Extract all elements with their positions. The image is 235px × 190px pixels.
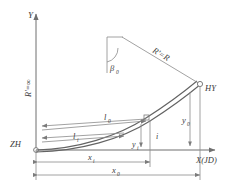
- radius-line: [122, 37, 200, 84]
- beta-angle-arc: [107, 48, 118, 62]
- arc-length-dimensions: [42, 119, 146, 142]
- spiral-curve-inner: [36, 84, 201, 152]
- xi-label: x: [87, 152, 92, 162]
- y0-label: y: [181, 115, 186, 125]
- zh-point-label: ZH: [10, 139, 22, 149]
- x0-label-group: x 0: [111, 165, 120, 177]
- hy-point-label: HY: [204, 83, 217, 93]
- spiral-curve-outer: [36, 81, 197, 150]
- curve-group: [36, 81, 201, 152]
- y0-subscript: 0: [187, 121, 190, 127]
- radius-infinite-label: R'=∞: [24, 79, 33, 98]
- beta0-label: β: [109, 63, 115, 73]
- x-axis-label: X(JD): [195, 155, 217, 165]
- xi-label-group: x i: [87, 152, 95, 164]
- l0-label-group: l 0: [104, 112, 111, 124]
- radius-line-group: [107, 37, 200, 84]
- l0-subscript: 0: [108, 118, 111, 124]
- xi-subscript: i: [93, 158, 95, 164]
- beta0-label-group: β 0: [109, 63, 119, 75]
- hy-point-marker: [197, 81, 202, 86]
- x0-label: x: [111, 165, 116, 175]
- diagram-canvas: Y X(JD) ZH R'=∞ R'=R β 0 HY l 0 l i y 0: [0, 0, 235, 190]
- spiral-curve-diagram: Y X(JD) ZH R'=∞ R'=R β 0 HY l 0 l i y 0: [0, 0, 235, 190]
- yi-label: y: [131, 140, 136, 149]
- yi-label-group: y i: [131, 140, 139, 151]
- li-label-group: l i: [73, 131, 79, 143]
- y0-label-group: y 0: [181, 115, 190, 127]
- beta0-subscript: 0: [116, 69, 119, 75]
- axis-group: [34, 14, 215, 152]
- x0-subscript: 0: [117, 171, 120, 177]
- y-axis-label: Y: [28, 10, 34, 20]
- point-i-label: i: [156, 132, 158, 141]
- li-subscript: i: [77, 137, 79, 143]
- l0-label: l: [104, 112, 107, 122]
